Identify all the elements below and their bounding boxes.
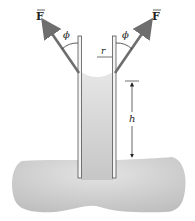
angle-label-left: ϕ	[63, 29, 70, 40]
radius-label: r	[101, 46, 106, 56]
tube-wall-left	[78, 36, 82, 178]
angle-arc-right	[116, 43, 132, 49]
force-label-left: F	[36, 10, 44, 23]
capillary-diagram: F F ϕ ϕ r h	[0, 0, 195, 221]
force-arrow-right	[115, 22, 150, 73]
force-arrow-left	[44, 22, 79, 73]
force-label-right: F	[152, 10, 160, 23]
angle-arc-left	[62, 43, 78, 49]
height-label: h	[129, 113, 135, 124]
angle-label-right: ϕ	[122, 29, 129, 40]
liquid-column	[81, 72, 113, 180]
tube-wall-right	[113, 36, 117, 178]
